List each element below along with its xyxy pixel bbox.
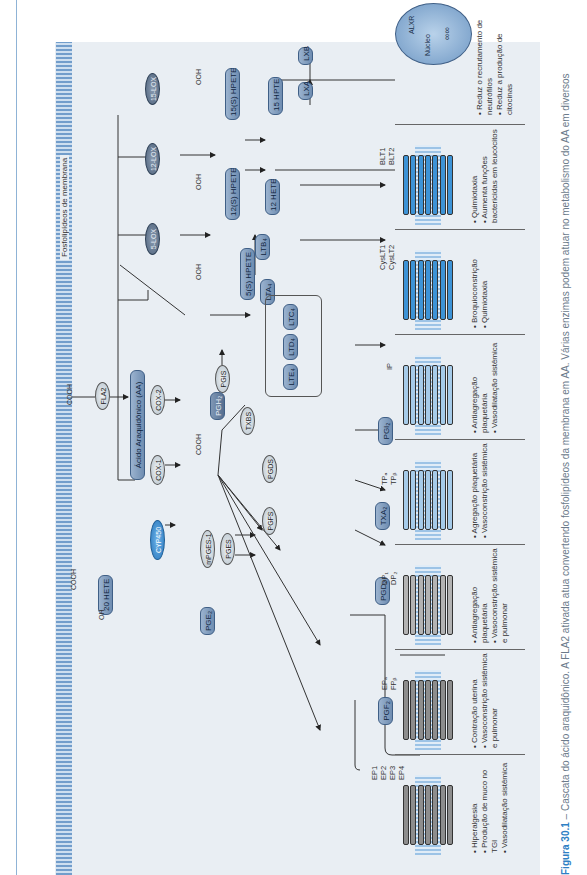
receptor-ip — [395, 355, 465, 435]
effects-tp: Agregação plaquetária Vasoconstrição sis… — [470, 443, 490, 538]
column-divider — [395, 754, 525, 755]
metabolite-15s-hpete: 15(S) HPETE — [225, 68, 240, 120]
receptor-label-blt: BLT1 BLT2 — [378, 148, 396, 165]
receptor-name: EP3 — [388, 766, 397, 780]
effect-item: Vasoconstrição sistêmica — [480, 443, 490, 538]
receptor-dp — [395, 565, 465, 645]
effect-item: Vasoconstrição sistêmica e pulmonar — [490, 548, 510, 643]
column-divider — [395, 439, 525, 440]
metabolite-lxa: LXA — [298, 82, 313, 100]
metabolite-pgf2: PGF₂ — [378, 697, 393, 725]
receptor-name: IP — [385, 363, 394, 370]
receptor-label-dp: DP₁ DP₂ — [380, 572, 398, 585]
effect-item: Broquioconstrição — [470, 233, 480, 328]
receptor-name: TPₐ — [380, 473, 389, 485]
effects-cyslt: Broquioconstrição Quimiotaxia — [470, 233, 490, 328]
metabolite-lte4: LTE₄ — [283, 364, 298, 390]
receptor-cyslt — [395, 250, 465, 330]
enzyme-15-lox: 15-LOX — [145, 73, 160, 105]
receptor-name: DP₂ — [389, 572, 398, 585]
enzyme-pgis: PGIS — [215, 365, 230, 393]
effect-item: Contração uterina — [470, 653, 480, 748]
receptor-label-ip: IP — [385, 363, 394, 370]
effect-item: Reduz o recrutamento de neutrófilos — [475, 5, 495, 115]
receptor-name: FPᵦ — [389, 677, 398, 690]
figure-caption: Figura 30.1 – Cascata do ácido araquidôn… — [560, 0, 571, 875]
enzyme-5-lox: 5-LOX — [145, 223, 160, 255]
caption-text: – Cascata do ácido araquidônico. A FLA2 … — [560, 73, 571, 822]
metabolite-pgh2: PGH₂ — [210, 392, 225, 420]
hpete5-structure-ooh: OOH — [195, 264, 202, 280]
enzyme-pgfs: PGFS — [262, 507, 277, 535]
column-divider — [395, 334, 525, 335]
effects-blt: Quimiotaxia Aumenta funções bactericidas… — [470, 128, 500, 223]
receptor-name: BLT2 — [387, 148, 396, 165]
metabolite-15-hpte: 15 HPTE — [268, 77, 283, 115]
effects-fp: Contração uterina Vasoconstrição sistêmi… — [470, 653, 500, 748]
diagram-stage: Fosfolipídeos de membrana — [0, 0, 587, 875]
receptor-name: CysLT1 — [378, 245, 387, 270]
effect-item: Quimiotaxia — [470, 128, 480, 223]
metabolite-lxb: LXB — [298, 47, 313, 65]
effect-item: Quimiotaxia — [480, 233, 490, 328]
metabolite-pge2: PGE₂ — [200, 607, 215, 635]
effect-item: Aumenta funções bactericidas em leucócit… — [480, 128, 500, 223]
receptor-name: EPₐ — [380, 677, 389, 690]
enzyme-pgds: PGDS — [262, 455, 277, 483]
receptor-tp — [395, 460, 465, 540]
receptor-epa-fpb — [395, 670, 465, 750]
effects-alxr: Reduz o recrutamento de neutrófilos Redu… — [475, 5, 515, 115]
metabolite-aa: Ácido Araquidônico (AA) — [130, 370, 145, 480]
hpete15-structure-ooh: OOH — [195, 69, 202, 85]
enzyme-12-lox: 12-LOX — [145, 143, 160, 175]
metabolite-ltb4: LTB₄ — [255, 234, 270, 260]
effects-dp: Antiagregação plaquetária Vasoconstrição… — [470, 548, 510, 643]
effect-item: Hiperalgesia — [470, 758, 480, 853]
enzyme-cox2: COX-2 — [150, 385, 165, 415]
column-divider — [395, 649, 525, 650]
aa-structure-cooh: COOH — [66, 384, 73, 405]
metabolite-12-hete: 12 HETE — [265, 179, 280, 215]
receptor-label-fp: EPₐ FPᵦ — [380, 677, 398, 690]
enzyme-pges: PGES — [220, 533, 235, 565]
metabolite-ltc4: LTC₄ — [283, 304, 298, 330]
hpete12-structure-ooh: OOH — [195, 174, 202, 190]
hete20-structure-cooh: COOH — [70, 569, 77, 590]
effect-item: Produção de muco no TGI — [480, 758, 500, 853]
receptor-label-tp: TPₐ TPᵦ — [380, 473, 398, 485]
effect-item: Vasoconstrição sistêmica e pulmonar — [480, 653, 500, 748]
metabolite-ltd4: LTD₄ — [283, 334, 298, 360]
metabolite-txa2: TXA₂ — [375, 502, 390, 530]
column-divider — [395, 124, 525, 125]
metabolite-5s-hpete: 5(S) HPETE — [240, 248, 255, 300]
enzyme-txbs: TXBS — [240, 407, 255, 435]
receptor-label-cyslt: CysLT1 CysLT2 — [378, 245, 396, 270]
effect-item: Antiagregação plaquetária — [470, 338, 490, 433]
receptor-name: BLT1 — [378, 148, 387, 165]
receptor-ep1-4 — [395, 775, 465, 855]
nucleus: Núcleo ALXR ∞∞ — [395, 3, 472, 65]
effect-item: Reduz a produção de citocinas — [495, 5, 515, 115]
dna-icon: ∞∞ — [442, 27, 452, 40]
enzyme-fla2: FLA2 — [95, 382, 110, 410]
receptor-label-ep: EP1 EP2 EP3 EP4 — [370, 766, 406, 780]
receptor-name: CysLT2 — [387, 245, 396, 270]
pgh2-structure-cooh: COOH — [195, 434, 202, 455]
effect-item: Antiagregação plaquetária — [470, 548, 490, 643]
enzyme-cox1: COX-1 — [150, 455, 165, 485]
receptor-blt — [395, 145, 465, 225]
effect-item: Agregação plaquetária — [470, 443, 480, 538]
column-divider — [395, 544, 525, 545]
receptor-name: TPᵦ — [389, 473, 398, 485]
caption-label: Figura 30.1 — [560, 822, 571, 875]
receptor-name: EP4 — [397, 766, 406, 780]
metabolite-12s-hpete: 12(S) HPETE — [225, 168, 240, 220]
receptor-name: DP₁ — [380, 572, 389, 585]
effect-item: Vasodilatação sistêmica — [490, 338, 500, 433]
effects-ip: Antiagregação plaquetária Vasodilatação … — [470, 338, 500, 433]
effect-item: Vasodilatação sistêmica — [500, 758, 510, 853]
receptor-name: EP2 — [379, 766, 388, 780]
hete20-structure-oh: OH — [98, 610, 105, 621]
enzyme-mpges-1: mPGES-1 — [200, 530, 215, 568]
enzyme-cyp450: CYP450 — [150, 520, 165, 560]
